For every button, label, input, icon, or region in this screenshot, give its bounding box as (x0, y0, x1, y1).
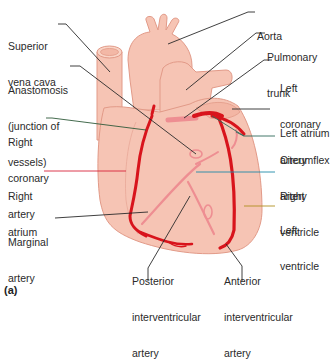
label-posterior-interventricular-artery: Posterior interventricular artery (132, 251, 201, 363)
label-line: artery (224, 347, 293, 359)
label-line: interventricular (224, 311, 293, 323)
label-line: ventricle (280, 260, 319, 272)
label-line: Superior (8, 40, 56, 52)
label-line: Posterior (132, 275, 201, 287)
label-line: Right (8, 190, 37, 202)
label-line: Left (280, 82, 321, 94)
label-left-ventricle: Left ventricle (280, 200, 319, 284)
label-line: Right (8, 136, 49, 148)
label-line: Circumflex (280, 154, 330, 166)
panel-label: (a) (4, 284, 17, 296)
label-line: interventricular (132, 311, 201, 323)
label-line: Anastomosis (8, 84, 68, 96)
label-line: Marginal (8, 236, 48, 248)
label-line: artery (8, 272, 48, 284)
label-line: artery (132, 347, 201, 359)
label-line: Left (280, 224, 319, 236)
